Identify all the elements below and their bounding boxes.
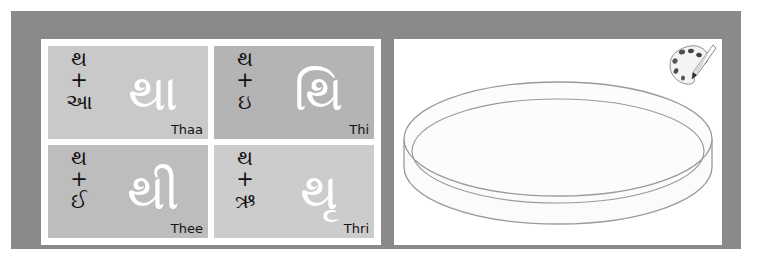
syllable-cell-thi[interactable]: થ + ઇ થિ Thi (214, 46, 374, 139)
formula-plus-sign: + (222, 169, 268, 190)
formula-consonant: થ (222, 148, 268, 169)
formula-plus-sign: + (222, 70, 268, 91)
syllable-cell-thee[interactable]: થ + ઈ થી Thee (48, 145, 208, 238)
drawing-canvas[interactable] (394, 39, 722, 245)
syllable-formula: થ + ઋ (222, 148, 268, 212)
syllable-romanization-label: Thee (171, 221, 203, 236)
syllable-cell-thaa[interactable]: થ + આ થા Thaa (48, 46, 208, 139)
formula-plus-sign: + (56, 169, 102, 190)
syllable-result-glyph: થૃ (266, 167, 371, 217)
syllable-formula: થ + આ (56, 49, 102, 113)
formula-vowel: ઋ (222, 191, 268, 212)
formula-consonant: થ (56, 49, 102, 70)
syllable-grid: થ + આ થા Thaa થ + ઇ થિ Thi થ + (48, 46, 374, 238)
syllable-cell-thri[interactable]: થ + ઋ થૃ Thri (214, 145, 374, 238)
syllable-result-glyph: થી (100, 167, 205, 217)
paint-palette-icon[interactable] (666, 41, 718, 89)
syllable-romanization-label: Thri (344, 221, 369, 236)
formula-vowel: ઈ (56, 191, 102, 212)
formula-consonant: થ (56, 148, 102, 169)
syllable-formula: થ + ઇ (222, 49, 268, 113)
syllable-chart-card: થ + આ થા Thaa થ + ઇ થિ Thi થ + (41, 39, 381, 245)
slide-frame: થ + આ થા Thaa થ + ઇ થિ Thi થ + (11, 11, 741, 249)
syllable-romanization-label: Thi (349, 122, 369, 137)
formula-vowel: ઇ (222, 92, 268, 113)
syllable-romanization-label: Thaa (171, 122, 203, 137)
syllable-formula: થ + ઈ (56, 148, 102, 212)
formula-consonant: થ (222, 49, 268, 70)
formula-plus-sign: + (56, 70, 102, 91)
formula-vowel: આ (56, 92, 102, 113)
syllable-result-glyph: થા (100, 68, 205, 118)
syllable-result-glyph: થિ (266, 68, 371, 118)
